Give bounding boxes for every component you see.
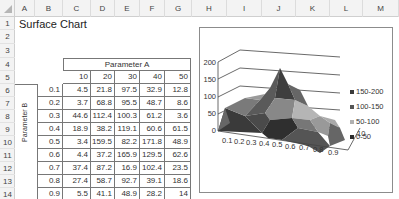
- legend-item-50-100[interactable]: 50-100: [350, 114, 384, 129]
- legend-item-0-50[interactable]: 0-50: [350, 129, 384, 144]
- row-header-13[interactable]: 13: [0, 175, 15, 188]
- spreadsheet: A B C D E F G H I J K L M 1 2 3 4 5 6 7 …: [0, 0, 399, 199]
- data-cell[interactable]: 3.6: [165, 110, 191, 123]
- chart-legend[interactable]: 150-200 100-150 50-100 0-50: [350, 84, 384, 144]
- data-cell[interactable]: 32.9: [140, 84, 165, 97]
- data-cell[interactable]: 60.6: [140, 123, 165, 136]
- column-header-d[interactable]: D: [91, 0, 115, 17]
- row-header-6[interactable]: 6: [0, 84, 15, 97]
- column-header-e[interactable]: E: [115, 0, 140, 17]
- select-all-corner[interactable]: [0, 0, 15, 17]
- data-cell[interactable]: 37.4: [63, 162, 91, 175]
- param-b-value-cell[interactable]: 0.9: [38, 188, 63, 199]
- param-b-value-cell[interactable]: 0.5: [38, 136, 63, 149]
- data-cell[interactable]: 23.5: [165, 162, 191, 175]
- column-header-b[interactable]: B: [35, 0, 63, 17]
- data-cell[interactable]: 102.4: [140, 162, 165, 175]
- data-cell[interactable]: 129.5: [140, 149, 165, 162]
- data-cell[interactable]: 159.5: [91, 136, 115, 149]
- column-header-c[interactable]: C: [63, 0, 91, 17]
- param-b-value-cell[interactable]: 0.1: [38, 84, 63, 97]
- param-b-value-cell[interactable]: 0.3: [38, 110, 63, 123]
- data-cell[interactable]: 165.9: [115, 149, 140, 162]
- data-cell[interactable]: 68.8: [91, 97, 115, 110]
- x-tick-0.2: 0.2: [234, 137, 244, 146]
- data-cell[interactable]: 4.5: [63, 84, 91, 97]
- param-b-value-cell[interactable]: 0.4: [38, 123, 63, 136]
- row-header-1[interactable]: 1: [0, 17, 15, 30]
- row-header-5[interactable]: 5: [0, 71, 15, 84]
- column-header-g[interactable]: G: [165, 0, 192, 17]
- data-cell[interactable]: 48.9: [115, 188, 140, 199]
- data-cell[interactable]: 18.6: [165, 175, 191, 188]
- data-cell[interactable]: 4.4: [63, 149, 91, 162]
- param-b-value-cell[interactable]: 0.8: [38, 175, 63, 188]
- param-a-value-cell[interactable]: 30: [115, 71, 140, 84]
- column-header-m[interactable]: M: [363, 0, 399, 17]
- data-cell[interactable]: 44.6: [63, 110, 91, 123]
- data-cell[interactable]: 95.5: [115, 97, 140, 110]
- param-b-value-cell[interactable]: 0.7: [38, 162, 63, 175]
- data-cell[interactable]: 97.5: [115, 84, 140, 97]
- data-cell[interactable]: 82.2: [115, 136, 140, 149]
- data-cell[interactable]: 5.5: [63, 188, 91, 199]
- param-a-value-cell[interactable]: 10: [63, 71, 91, 84]
- row-header-14[interactable]: 14: [0, 188, 15, 199]
- data-cell[interactable]: 18.9: [63, 123, 91, 136]
- data-cell[interactable]: 112.4: [91, 110, 115, 123]
- param-b-value-cell[interactable]: 0.6: [38, 149, 63, 162]
- data-cell[interactable]: 16.9: [115, 162, 140, 175]
- surface-chart[interactable]: 200 150 100 50 0 0.1 0.2 0.3 0.4 0.5 0.6…: [199, 27, 393, 193]
- data-cell[interactable]: 3.4: [63, 136, 91, 149]
- data-cell[interactable]: 92.7: [115, 175, 140, 188]
- param-b-value-cell[interactable]: 0.2: [38, 97, 63, 110]
- row-header-2[interactable]: 2: [0, 30, 15, 44]
- row-header-10[interactable]: 10: [0, 136, 15, 149]
- data-cell[interactable]: 48.7: [140, 97, 165, 110]
- data-cell[interactable]: 8.6: [165, 97, 191, 110]
- data-cell[interactable]: 39.1: [140, 175, 165, 188]
- data-cell[interactable]: 87.2: [91, 162, 115, 175]
- row-header-7[interactable]: 7: [0, 97, 15, 110]
- select-all-triangle-icon: [4, 5, 12, 13]
- param-a-value-cell[interactable]: 20: [91, 71, 115, 84]
- data-cell[interactable]: 119.1: [115, 123, 140, 136]
- legend-item-100-150[interactable]: 100-150: [350, 99, 384, 114]
- row-header-12[interactable]: 12: [0, 162, 15, 175]
- param-a-value-cell[interactable]: 40: [140, 71, 165, 84]
- row-header-11[interactable]: 11: [0, 149, 15, 162]
- row-header-9[interactable]: 9: [0, 123, 15, 136]
- data-cell[interactable]: 37.2: [91, 149, 115, 162]
- column-header-l[interactable]: L: [330, 0, 363, 17]
- legend-swatch-icon: [350, 90, 354, 94]
- row-header-3[interactable]: 3: [0, 44, 15, 58]
- parameter-a-header[interactable]: Parameter A: [63, 58, 191, 71]
- data-cell[interactable]: 14: [165, 188, 191, 199]
- legend-item-150-200[interactable]: 150-200: [350, 84, 384, 99]
- data-cell[interactable]: 41.1: [91, 188, 115, 199]
- column-header-a[interactable]: A: [15, 0, 35, 17]
- column-header-h[interactable]: H: [192, 0, 227, 17]
- param-a-value-cell[interactable]: 50: [165, 71, 191, 84]
- data-cell[interactable]: 28.2: [140, 188, 165, 199]
- data-cell[interactable]: 62.6: [165, 149, 191, 162]
- data-cell[interactable]: 3.7: [63, 97, 91, 110]
- data-cell[interactable]: 38.2: [91, 123, 115, 136]
- sheet-title[interactable]: Surface Chart: [19, 18, 87, 30]
- column-header-j[interactable]: J: [262, 0, 296, 17]
- column-header-k[interactable]: K: [296, 0, 330, 17]
- data-cell[interactable]: 171.8: [140, 136, 165, 149]
- legend-label: 50-100: [356, 117, 379, 126]
- row-header-8[interactable]: 8: [0, 110, 15, 123]
- data-cell[interactable]: 61.5: [165, 123, 191, 136]
- data-cell[interactable]: 21.8: [91, 84, 115, 97]
- column-header-i[interactable]: I: [227, 0, 262, 17]
- column-header-f[interactable]: F: [140, 0, 165, 17]
- data-cell[interactable]: 12.8: [165, 84, 191, 97]
- data-cell[interactable]: 100.3: [115, 110, 140, 123]
- data-cell[interactable]: 58.7: [91, 175, 115, 188]
- data-cell[interactable]: 61.2: [140, 110, 165, 123]
- data-cell[interactable]: 48.9: [165, 136, 191, 149]
- row-header-4[interactable]: 4: [0, 58, 15, 71]
- data-cell[interactable]: 27.4: [63, 175, 91, 188]
